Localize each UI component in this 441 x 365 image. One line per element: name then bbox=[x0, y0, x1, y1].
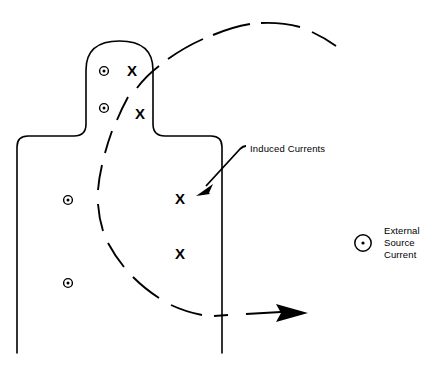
field-arc-segment bbox=[168, 39, 203, 59]
field-arc-segment bbox=[117, 97, 128, 120]
legend-line-3: Current bbox=[384, 249, 417, 260]
field-arc-segment bbox=[213, 24, 250, 35]
field-arrow-shaft bbox=[246, 312, 281, 314]
dot-in-circle-icon bbox=[100, 67, 109, 76]
x-mark: X bbox=[175, 245, 185, 262]
field-arc-segment bbox=[261, 23, 300, 27]
field-arc-segment bbox=[137, 66, 159, 88]
dot-in-circle-icon bbox=[100, 104, 109, 113]
induced-currents-arrow-head bbox=[196, 184, 213, 196]
induced-currents-annotation: Induced Currents bbox=[196, 143, 325, 196]
x-mark: X bbox=[127, 62, 137, 79]
field-arc-segment bbox=[98, 165, 102, 190]
dot-in-circle-icon bbox=[64, 196, 73, 205]
legend-line-2: Source bbox=[384, 237, 415, 248]
field-arc-segment bbox=[312, 32, 336, 46]
field-arc-segment bbox=[105, 131, 112, 153]
induced-currents-arrow-shaft bbox=[206, 146, 246, 186]
field-arc-segment bbox=[214, 315, 228, 316]
field-arc-segment bbox=[108, 243, 124, 267]
body-silhouette bbox=[17, 41, 222, 353]
x-mark: X bbox=[175, 190, 185, 207]
body-outline-group bbox=[17, 41, 222, 353]
x-mark: X bbox=[135, 105, 145, 122]
field-direction-arrow bbox=[246, 304, 308, 322]
induced-current-crosses: X X X X bbox=[127, 62, 185, 262]
induced-currents-label: Induced Currents bbox=[250, 143, 325, 154]
dot-in-circle-icon bbox=[64, 279, 73, 288]
body-current-diagram: Induced Currents X X X bbox=[0, 0, 441, 365]
legend-dot-in-circle-icon bbox=[355, 235, 371, 251]
field-arc-segment bbox=[171, 305, 202, 315]
legend: External Source Current bbox=[355, 225, 420, 260]
field-arc-segment bbox=[98, 204, 103, 231]
field-arrow-head bbox=[276, 304, 308, 322]
legend-line-1: External bbox=[384, 225, 420, 236]
field-arc-segment bbox=[133, 277, 159, 298]
diagram-root: Induced Currents X X X bbox=[0, 0, 441, 365]
